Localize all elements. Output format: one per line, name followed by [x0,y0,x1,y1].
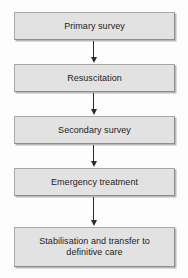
arrow-stem [93,197,94,220]
flow-node-label: Emergency treatment [47,177,142,188]
arrow-head-icon [91,161,97,167]
flow-node-secondary-survey: Secondary survey [14,116,175,144]
flow-node-emergency-treatment: Emergency treatment [14,168,175,196]
flow-node-label: Resuscitation [63,73,126,84]
flow-node-stabilisation-transfer: Stabilisation and transfer to definitive… [14,227,175,267]
flowchart-diagram: Primary survey Resuscitation Secondary s… [0,0,188,278]
arrow-stem [93,93,94,109]
flow-node-label: Primary survey [60,21,129,32]
flow-arrow-resuscitation-to-secondary [93,93,95,115]
arrow-stem [93,41,94,57]
flow-node-resuscitation: Resuscitation [14,64,175,92]
flow-arrow-secondary-to-emergency [93,145,95,167]
arrow-head-icon [91,220,97,226]
arrow-stem [93,145,94,161]
arrow-head-icon [91,57,97,63]
flow-arrow-primary-to-resuscitation [93,41,95,63]
flow-node-label: Stabilisation and transfer to definitive… [35,236,154,258]
flow-node-primary-survey: Primary survey [14,12,175,40]
arrow-head-icon [91,109,97,115]
flow-node-label: Secondary survey [54,125,135,136]
flow-arrow-emergency-to-stabilisation [93,197,95,226]
